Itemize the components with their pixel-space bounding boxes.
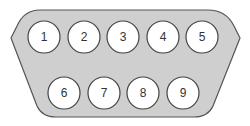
pin-1-label: 1 (41, 30, 48, 44)
pin-5-label: 5 (199, 30, 206, 44)
pin-2: 2 (68, 21, 100, 53)
pin-3-label: 3 (120, 30, 127, 44)
pin-5: 5 (186, 21, 218, 53)
pin-4-label: 4 (160, 30, 167, 44)
pin-9: 9 (167, 77, 199, 109)
pin-3: 3 (107, 21, 139, 53)
pin-7-label: 7 (101, 86, 108, 100)
pin-8: 8 (127, 77, 159, 109)
pin-7: 7 (88, 77, 120, 109)
pin-9-label: 9 (180, 86, 187, 100)
pin-8-label: 8 (140, 86, 147, 100)
pin-1: 1 (28, 21, 60, 53)
pin-2-label: 2 (81, 30, 88, 44)
db9-connector-diagram: 1 2 3 4 5 6 7 8 9 (0, 0, 250, 126)
pin-6-label: 6 (61, 86, 68, 100)
pin-6: 6 (48, 77, 80, 109)
pin-4: 4 (147, 21, 179, 53)
